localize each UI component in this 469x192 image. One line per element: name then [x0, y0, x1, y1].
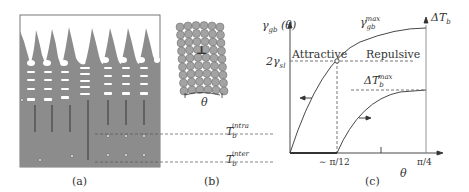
panel-a-microstructure — [20, 15, 275, 167]
gamma-gb-max-label: γgbmax — [360, 16, 390, 31]
caption-c: (c) — [365, 176, 380, 187]
region-attractive: Attractive — [292, 49, 347, 60]
x-tick-pi-4: π/4 — [417, 158, 432, 167]
y-left-axis-label: γgb (θ) — [262, 20, 296, 34]
caption-a: (a) — [72, 176, 87, 187]
x-tick-pi-12: ∼ π/12 — [319, 158, 350, 167]
dT-max-label: ΔTbmax — [364, 74, 399, 89]
t-intra-label: Tbintra — [226, 125, 255, 140]
two-gamma-sl-label: 2γsl — [266, 56, 285, 70]
y-right-axis-label: ΔTb — [431, 12, 451, 26]
theta-label-b: θ — [201, 97, 208, 108]
caption-b: (b) — [204, 176, 220, 187]
x-axis-label: θ — [400, 168, 407, 179]
region-repulsive: Repulsive — [366, 49, 420, 60]
panel-b-atoms — [176, 22, 228, 96]
dislocation-symbol: ⊥ — [196, 44, 208, 56]
t-inter-label: Tbinter — [226, 153, 255, 168]
